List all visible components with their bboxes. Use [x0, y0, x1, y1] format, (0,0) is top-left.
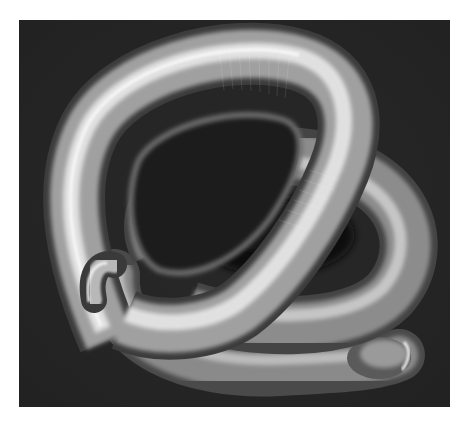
nematode-illustration: [19, 20, 450, 407]
micrograph-panel: Scanning electron micrograph of a coiled…: [19, 20, 450, 407]
